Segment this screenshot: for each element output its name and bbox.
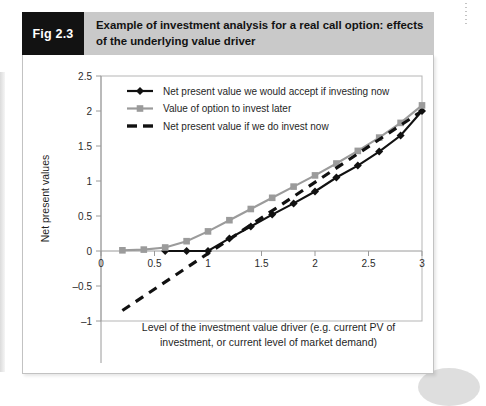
chart-svg: –1–0.500.511.522.500.511.522.53Net prese… — [23, 55, 433, 372]
data-marker-square — [312, 172, 319, 179]
data-marker-square — [419, 102, 426, 109]
x-axis-title-line: Level of the investment value driver (e.… — [142, 321, 395, 333]
figure-card: Fig 2.3 Example of investment analysis f… — [22, 12, 434, 374]
data-marker-square — [290, 183, 297, 190]
x-tick-label: 1.5 — [255, 258, 269, 269]
x-tick-label: 1 — [205, 258, 211, 269]
series-line — [165, 111, 422, 251]
data-marker-square — [248, 206, 255, 213]
y-tick-label: 1 — [86, 176, 92, 187]
x-tick-label: 2.5 — [362, 258, 376, 269]
chart-canvas: –1–0.500.511.522.500.511.522.53Net prese… — [23, 55, 433, 373]
data-marker-square — [269, 195, 276, 202]
data-marker-square — [205, 228, 212, 235]
x-tick-label: 2 — [312, 258, 318, 269]
data-marker-diamond — [183, 247, 191, 255]
legend-label: Value of option to invest later — [163, 103, 292, 114]
legend-label: Net present value if we do invest now — [163, 121, 329, 132]
y-tick-label: 2.5 — [78, 71, 92, 82]
legend-item-1 — [127, 105, 153, 112]
data-marker-square — [119, 247, 126, 254]
scan-edge-artifact — [0, 72, 5, 372]
data-marker-diamond — [290, 199, 298, 207]
scan-dots-artifact — [465, 3, 467, 25]
series-line — [122, 111, 422, 311]
data-marker-square — [141, 246, 148, 253]
y-tick-label: 0 — [86, 246, 92, 257]
legend-label: Net present value we would accept if inv… — [163, 86, 390, 97]
series-2 — [122, 111, 422, 311]
y-tick-label: 2 — [86, 106, 92, 117]
data-marker-square — [137, 105, 144, 112]
x-tick-label: 0 — [98, 258, 104, 269]
data-marker-square — [162, 244, 169, 251]
data-marker-square — [226, 217, 233, 224]
legend-item-0 — [127, 87, 153, 95]
x-tick-label: 3 — [419, 258, 425, 269]
data-marker-square — [183, 238, 190, 245]
figure-header: Fig 2.3 Example of investment analysis f… — [22, 12, 434, 55]
figure-number-badge: Fig 2.3 — [22, 12, 84, 55]
y-tick-label: 1.5 — [78, 141, 92, 152]
figure-title: Example of investment analysis for a rea… — [96, 18, 426, 49]
data-marker-diamond — [136, 87, 144, 95]
figure-body: –1–0.500.511.522.500.511.522.53Net prese… — [22, 55, 434, 374]
y-tick-label: 0.5 — [78, 211, 92, 222]
y-axis-title: Net present values — [39, 155, 51, 243]
data-marker-square — [355, 148, 362, 155]
x-tick-label: 0.5 — [148, 258, 162, 269]
y-tick-label: –1 — [81, 316, 93, 327]
y-tick-label: –0.5 — [73, 281, 93, 292]
x-axis-title-line: investment, or current level of market d… — [160, 336, 377, 348]
